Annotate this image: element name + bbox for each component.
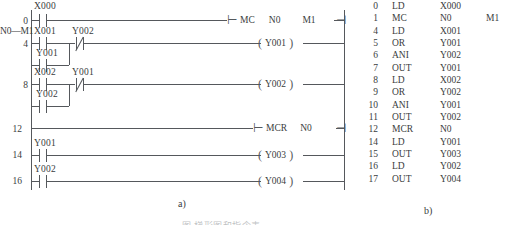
rung-wire <box>334 20 345 21</box>
rung-wire <box>47 155 261 156</box>
instruction-row: 16LDY002 <box>352 160 516 172</box>
instruction-operand1: X002 <box>440 74 486 86</box>
rung-wire <box>47 84 69 85</box>
branch-wire <box>47 65 69 66</box>
rung-wire <box>84 84 261 85</box>
instruction-mnemonic: OR <box>378 86 440 98</box>
instruction-operand1: Y003 <box>440 148 486 160</box>
mc-scope-label: N0—M1 <box>0 26 33 36</box>
instruction-mnemonic: LD <box>378 25 440 37</box>
instruction-operand2 <box>486 148 516 160</box>
instruction-block-mcr[interactable]: ⊢ MCR N0 ⊣ <box>253 121 346 135</box>
instruction-step-number: 7 <box>352 62 378 74</box>
rung-wire <box>47 43 69 44</box>
instruction-operand1: N0 <box>440 123 486 135</box>
instruction-operand1: N0 <box>440 12 486 24</box>
instruction-row: 12MCRN0 <box>352 123 516 135</box>
coil-right-paren-icon: ) <box>289 37 293 49</box>
contact-label-y001-out: Y001 <box>34 138 56 148</box>
instruction-operand1: Y004 <box>440 173 486 185</box>
branch-wire-right <box>69 43 70 65</box>
instruction-mnemonic: LD <box>378 0 440 12</box>
instruction-operand2 <box>486 111 516 123</box>
instruction-mnemonic: LD <box>378 136 440 148</box>
instruction-block-mc[interactable]: ⊢ MC N0 M1 ⊣ <box>227 13 346 27</box>
rung-wire <box>31 128 253 129</box>
instruction-row: 14LDY001 <box>352 136 516 148</box>
instruction-operand1: Y001 <box>440 62 486 74</box>
coil-y002[interactable]: ( Y002 ) <box>258 77 293 91</box>
instruction-operand2 <box>486 136 516 148</box>
contact-label-x001: X001 <box>34 26 56 36</box>
instruction-step-number: 6 <box>352 49 378 61</box>
contact-label-y001: Y001 <box>72 67 94 77</box>
right-power-rail <box>344 10 345 190</box>
branch-wire-right <box>69 84 70 106</box>
instruction-operand2 <box>486 99 516 111</box>
instruction-mnemonic: OUT <box>378 62 440 74</box>
rung-wire <box>47 20 227 21</box>
instruction-operand1: Y002 <box>440 86 486 98</box>
instruction-step-number: 4 <box>352 25 378 37</box>
instruction-operand2 <box>486 74 516 86</box>
coil-label: Y002 <box>262 79 289 89</box>
branch-wire <box>47 106 69 107</box>
bracket-left-icon: ⊢ <box>227 14 237 26</box>
instruction-mnemonic: MCR <box>378 123 440 135</box>
instruction-row: 0LDX000 <box>352 0 516 12</box>
instruction-operand1: Y001 <box>440 136 486 148</box>
rung-wire <box>303 155 345 156</box>
instruction-mnemonic: OR <box>378 37 440 49</box>
instruction-mnemonic: OUT <box>378 148 440 160</box>
instruction-operand1: N0 <box>255 15 281 25</box>
instruction-step-number: 17 <box>352 173 378 185</box>
branch-wire-left <box>31 43 32 65</box>
rung-step-number: 14 <box>6 150 22 160</box>
contact-label-y002-branch: Y002 <box>36 89 58 99</box>
coil-y003[interactable]: ( Y003 ) <box>258 148 293 162</box>
rung-step-number: 8 <box>12 80 28 90</box>
instruction-operand1: X000 <box>440 0 486 12</box>
instruction-operand2 <box>486 173 516 185</box>
instruction-row: 7OUTY001 <box>352 62 516 74</box>
instruction-step-number: 16 <box>352 160 378 172</box>
coil-y004[interactable]: ( Y004 ) <box>258 174 293 188</box>
instruction-mnemonic: ANI <box>378 99 440 111</box>
rung-wire <box>303 43 345 44</box>
instruction-operand1: Y002 <box>440 160 486 172</box>
instruction-mnemonic: ANI <box>378 49 440 61</box>
rung-step-number: 12 <box>6 124 22 134</box>
instruction-row: 15OUTY003 <box>352 148 516 160</box>
contact-label-x000: X000 <box>34 1 56 11</box>
coil-label: Y003 <box>262 150 289 160</box>
instruction-row: 4LDX001 <box>352 25 516 37</box>
rung-wire <box>303 84 345 85</box>
coil-label: Y004 <box>262 176 289 186</box>
instruction-row: 9ORY002 <box>352 86 516 98</box>
contact-label-x002: X002 <box>34 67 56 77</box>
instruction-operand2 <box>486 0 516 12</box>
instruction-row: 6ANIY002 <box>352 49 516 61</box>
instruction-row: 5ORY001 <box>352 37 516 49</box>
rung-wire <box>47 181 261 182</box>
ladder-diagram: 0 N0—M1 X000 ⊢ MC N0 M1 ⊣ 4 X001 Y001 Y0… <box>0 0 352 200</box>
contact-label-y002-out: Y002 <box>34 164 56 174</box>
instruction-mnemonic: LD <box>378 74 440 86</box>
instruction-step-number: 9 <box>352 86 378 98</box>
rung-step-number: 16 <box>6 176 22 186</box>
instruction-step-number: 11 <box>352 111 378 123</box>
instruction-operand1: X001 <box>440 25 486 37</box>
instruction-operand1: Y001 <box>440 99 486 111</box>
bracket-left-icon: ⊢ <box>253 122 263 134</box>
contact-label-y002: Y002 <box>72 26 94 36</box>
instruction-step-number: 14 <box>352 136 378 148</box>
coil-right-paren-icon: ) <box>289 175 293 187</box>
rung-step-number: 4 <box>12 39 28 49</box>
figure-bottom-caption: 图 梯形图和指令表 <box>182 219 261 225</box>
instruction-row: 11OUTY002 <box>352 111 516 123</box>
coil-y001[interactable]: ( Y001 ) <box>258 36 293 50</box>
instruction-step-number: 10 <box>352 99 378 111</box>
instruction-operand1: Y002 <box>440 49 486 61</box>
rung-wire <box>84 43 261 44</box>
instruction-step-number: 5 <box>352 37 378 49</box>
